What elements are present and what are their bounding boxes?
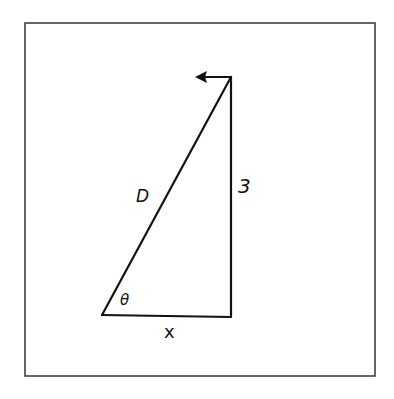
- angle-label: θ: [120, 291, 129, 309]
- vertical-side-label: 3: [238, 174, 251, 198]
- hypotenuse-line: [102, 77, 231, 315]
- triangle: [102, 77, 231, 317]
- horizontal-side-line: [102, 315, 231, 317]
- hypotenuse-label: D: [136, 186, 149, 206]
- triangle-diagram: D 3 x θ: [0, 0, 394, 399]
- horizontal-side-label: x: [164, 321, 175, 342]
